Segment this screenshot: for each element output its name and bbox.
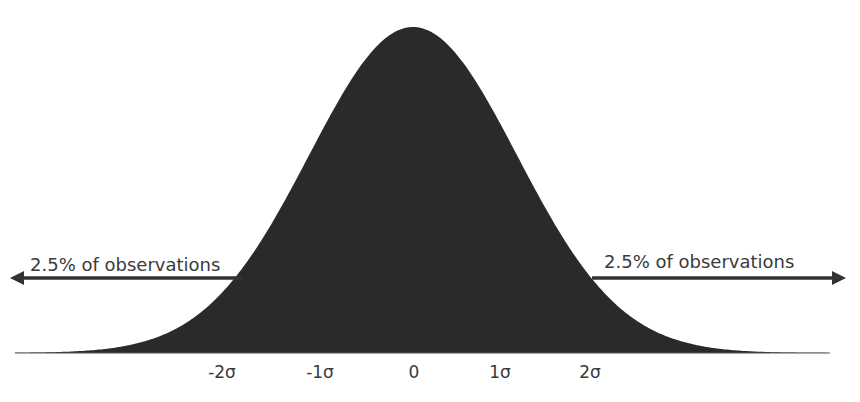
axis-label-minus-2-sigma: -2σ [208,362,236,382]
axis-label-zero: 0 [409,362,420,382]
left-tail-label: 2.5% of observations [30,254,220,275]
arrow-left-icon [10,271,24,285]
axis-label-plus-2-sigma: 2σ [579,362,601,382]
arrow-right-icon [832,271,846,285]
bell-curve-area [15,27,830,353]
axis-label-plus-1-sigma: 1σ [489,362,511,382]
normal-distribution-diagram: 2.5% of observations 2.5% of observation… [0,0,860,402]
axis-label-minus-1-sigma: -1σ [306,362,334,382]
right-tail-label: 2.5% of observations [604,251,794,272]
right-tail-arrow [592,271,846,285]
